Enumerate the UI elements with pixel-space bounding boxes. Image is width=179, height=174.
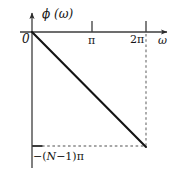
- origin-label: 0: [22, 33, 30, 45]
- y-tick-label-min: −(N−1)π: [33, 151, 84, 162]
- x-tick-label-pi: π: [88, 35, 95, 46]
- y-tick-label-min-prefix: −(: [33, 150, 47, 163]
- phase-response-line: [32, 32, 146, 147]
- x-tick-label-2pi: 2π: [130, 34, 144, 45]
- y-tick-label-min-variable: N: [47, 150, 57, 163]
- x-axis-label: ω: [158, 35, 167, 46]
- phase-response-figure: 0 ϕ (ω) ω π 2π −(N−1)π: [0, 0, 179, 174]
- y-tick-label-min-mid: −1): [56, 150, 77, 163]
- y-tick-label-min-suffix: π: [77, 150, 84, 163]
- y-axis-label: ϕ (ω): [42, 8, 73, 20]
- plot-canvas: [0, 0, 179, 174]
